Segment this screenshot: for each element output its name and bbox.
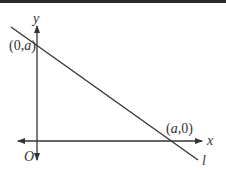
y-axis-label: y (31, 11, 40, 26)
origin-label: O (24, 149, 34, 164)
x-intercept-label: (a,0) (166, 121, 193, 137)
line-l (11, 27, 198, 160)
y-intercept-label: (0,a) (9, 38, 36, 54)
coordinate-plane: y x O l (0,a) (a,0) (0, 0, 226, 173)
line-name-label: l (202, 153, 206, 168)
diagram-canvas: y x O l (0,a) (a,0) (0, 0, 226, 173)
x-axis-label: x (206, 133, 214, 148)
